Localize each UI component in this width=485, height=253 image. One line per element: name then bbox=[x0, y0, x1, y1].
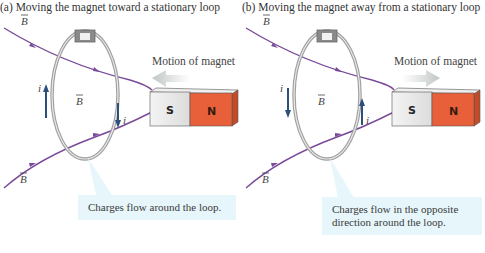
motion-arrow-left-icon bbox=[152, 70, 190, 87]
svg-text:i: i bbox=[366, 114, 369, 126]
magnet-north-label: N bbox=[449, 105, 458, 118]
callout-b: Charges flow in the opposite direction a… bbox=[322, 197, 482, 235]
field-symbol-top: B bbox=[263, 15, 270, 27]
bar-magnet: S N bbox=[392, 88, 480, 126]
motion-label-a: Motion of magnet bbox=[152, 55, 235, 67]
motion-label-b: Motion of magnet bbox=[394, 55, 477, 67]
svg-text:i: i bbox=[280, 82, 283, 94]
field-arrow-icon bbox=[93, 67, 100, 72]
bar-magnet: S N bbox=[150, 88, 238, 126]
callout-a: Charges flow around the loop. bbox=[78, 195, 236, 220]
panel-b: (b) Moving the magnet away from a statio… bbox=[242, 0, 484, 253]
magnet-north-label: N bbox=[207, 105, 216, 118]
field-arrow-icon bbox=[335, 67, 342, 72]
motion-arrow-right-icon bbox=[402, 70, 440, 87]
field-symbol-bottom: B bbox=[20, 173, 27, 185]
field-symbol-bottom: B bbox=[262, 173, 269, 185]
field-symbol-center: B bbox=[76, 95, 83, 107]
svg-text:i: i bbox=[38, 82, 41, 94]
svg-text:i: i bbox=[123, 114, 126, 126]
field-symbol-top: B bbox=[21, 15, 28, 27]
field-symbol-center: B bbox=[318, 95, 325, 107]
magnet-south-label: S bbox=[408, 104, 416, 117]
panel-a: (a) Moving the magnet toward a stationar… bbox=[0, 0, 242, 253]
magnet-south-label: S bbox=[166, 104, 174, 117]
